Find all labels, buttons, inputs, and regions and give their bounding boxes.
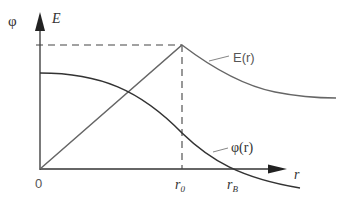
x-axis-arrow-icon	[268, 165, 287, 174]
e-label-leader	[209, 56, 229, 61]
origin-label: 0	[35, 176, 42, 191]
rb-sub: B	[232, 184, 238, 194]
e-curve-label: E(r)	[233, 50, 255, 65]
phi-curve	[40, 73, 300, 188]
e-curve	[40, 45, 336, 169]
r0-sub: 0	[180, 184, 185, 194]
phi-label-leader	[213, 148, 228, 152]
r0-tick-label: r0	[175, 177, 185, 194]
phi-axis-label: φ	[8, 13, 17, 29]
r-axis-label: r	[294, 167, 300, 182]
e-axis-label: E	[51, 11, 61, 26]
rb-tick-label: rB	[227, 177, 238, 194]
potential-field-diagram: φ E r 0 r0 rB E(r) φ(r)	[0, 0, 348, 201]
phi-curve-label: φ(r)	[231, 140, 253, 156]
y-axis-arrow-icon	[35, 12, 45, 31]
